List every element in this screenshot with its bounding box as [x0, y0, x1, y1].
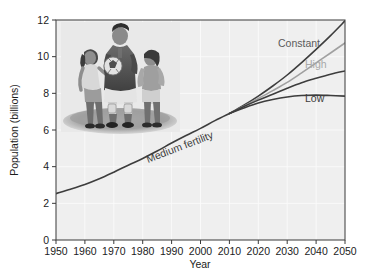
- x-axis-title: Year: [189, 258, 211, 270]
- y-tick-label: 0: [43, 234, 49, 246]
- x-tick-label: 2010: [218, 245, 242, 257]
- x-tick-label: 1960: [73, 245, 97, 257]
- x-tick-label: 1950: [44, 245, 68, 257]
- x-tick-label: 2040: [304, 245, 328, 257]
- y-tick-label: 10: [37, 50, 49, 62]
- x-tick-label: 1980: [131, 245, 155, 257]
- y-tick-label: 6: [43, 124, 49, 136]
- x-tick-label: 2000: [189, 245, 213, 257]
- constant-label: Constant: [278, 37, 320, 49]
- x-tick-label: 1970: [102, 245, 126, 257]
- population-projection-chart: 024681012 195019601970198019902000201020…: [0, 0, 377, 273]
- y-axis-title: Population (billions): [8, 84, 20, 176]
- y-tick-label: 12: [37, 14, 49, 26]
- y-tick-label: 2: [43, 197, 49, 209]
- high-label: High: [305, 58, 327, 70]
- y-tick-label: 4: [43, 160, 49, 172]
- y-tick-label: 8: [43, 87, 49, 99]
- low-label: Low: [305, 92, 325, 104]
- x-tick-label: 2030: [276, 245, 300, 257]
- chart-figure: 024681012 195019601970198019902000201020…: [0, 0, 377, 273]
- x-tick-label: 2020: [247, 245, 271, 257]
- x-tick-label: 1990: [160, 245, 184, 257]
- x-tick-label: 2050: [333, 245, 357, 257]
- three-children-with-soccer-ball-photo: [61, 22, 180, 134]
